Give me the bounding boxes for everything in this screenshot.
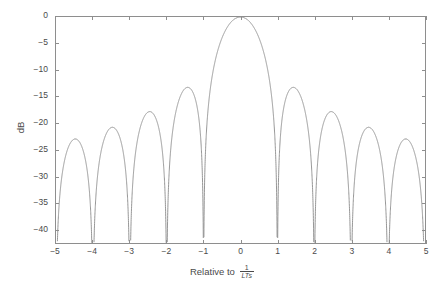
- y-tick-label--10: −10: [18, 64, 48, 74]
- x-tick--2: [166, 240, 167, 244]
- y-tick-0: [55, 16, 59, 17]
- y-tick-0: [422, 16, 426, 17]
- y-tick-label--15: −15: [18, 90, 48, 100]
- y-tick--35: [55, 203, 59, 204]
- x-tick-2: [315, 240, 316, 244]
- y-tick--10: [422, 70, 426, 71]
- x-tick--3: [129, 16, 130, 20]
- y-tick--20: [55, 123, 59, 124]
- x-tick-1: [278, 16, 279, 20]
- x-tick-label-2: 2: [300, 246, 330, 256]
- x-tick-3: [352, 240, 353, 244]
- x-tick--1: [203, 16, 204, 20]
- y-tick--15: [422, 96, 426, 97]
- x-axis-fraction: 1 LTs: [240, 264, 255, 280]
- x-tick-4: [389, 240, 390, 244]
- x-tick-2: [315, 16, 316, 20]
- x-tick--4: [92, 240, 93, 244]
- y-tick-label--25: −25: [18, 144, 48, 154]
- y-tick-label-0: 0: [18, 10, 48, 20]
- y-tick--15: [55, 96, 59, 97]
- y-tick--25: [422, 150, 426, 151]
- x-axis-label: Relative to 1 LTs: [0, 265, 444, 281]
- y-tick--5: [55, 43, 59, 44]
- figure-canvas: dB −5−4−3−2−10123450−5−10−15−20−25−30−35…: [0, 0, 444, 295]
- y-tick--30: [55, 177, 59, 178]
- y-tick--35: [422, 203, 426, 204]
- fraction-numerator: 1: [240, 264, 255, 271]
- y-tick--20: [422, 123, 426, 124]
- x-tick-label-3: 3: [337, 246, 367, 256]
- sinc-spectrum-curve: [56, 17, 425, 243]
- x-tick-label--4: −4: [77, 246, 107, 256]
- x-tick-label--5: −5: [40, 246, 70, 256]
- x-tick-label--3: −3: [114, 246, 144, 256]
- x-tick-5: [426, 240, 427, 244]
- y-tick-label--35: −35: [18, 197, 48, 207]
- plot-area: [55, 16, 426, 244]
- y-tick--25: [55, 150, 59, 151]
- x-tick-3: [352, 16, 353, 20]
- x-tick--5: [55, 240, 56, 244]
- x-tick--1: [203, 240, 204, 244]
- fraction-denominator: LTs: [240, 271, 255, 279]
- x-tick-label--1: −1: [188, 246, 218, 256]
- x-tick--2: [166, 16, 167, 20]
- y-tick-label--5: −5: [18, 37, 48, 47]
- x-tick-0: [241, 16, 242, 20]
- x-tick--4: [92, 16, 93, 20]
- y-tick-label--30: −30: [18, 171, 48, 181]
- x-tick-1: [278, 240, 279, 244]
- x-tick--3: [129, 240, 130, 244]
- y-tick-label--40: −40: [18, 224, 48, 234]
- y-tick--5: [422, 43, 426, 44]
- y-tick--10: [55, 70, 59, 71]
- x-tick-label-4: 4: [374, 246, 404, 256]
- x-tick-label-5: 5: [411, 246, 441, 256]
- y-tick--40: [422, 230, 426, 231]
- x-axis-label-text: Relative to: [190, 266, 235, 277]
- y-tick-label--20: −20: [18, 117, 48, 127]
- x-tick-5: [426, 16, 427, 20]
- x-tick-label-1: 1: [263, 246, 293, 256]
- x-tick-label-0: 0: [226, 246, 256, 256]
- y-tick--30: [422, 177, 426, 178]
- x-tick-0: [241, 240, 242, 244]
- x-tick-label--2: −2: [151, 246, 181, 256]
- y-tick--40: [55, 230, 59, 231]
- x-tick-4: [389, 16, 390, 20]
